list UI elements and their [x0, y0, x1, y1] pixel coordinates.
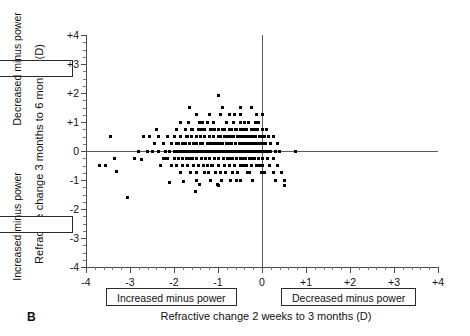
data-point	[166, 135, 169, 138]
data-point	[283, 179, 286, 182]
data-point	[261, 157, 264, 160]
data-point	[157, 150, 160, 153]
data-point	[255, 113, 258, 116]
x-tick-minor	[429, 267, 430, 270]
data-point	[261, 164, 264, 167]
x-tick-label: -3	[125, 276, 134, 288]
data-point	[208, 113, 211, 116]
data-point	[261, 113, 264, 116]
x-tick-label: +3	[388, 276, 400, 288]
y-tick-label: 0	[73, 145, 79, 157]
data-point	[233, 164, 236, 167]
y-tick-major	[81, 35, 86, 36]
y-tick-minor	[83, 42, 86, 43]
x-tick-minor	[368, 267, 369, 270]
data-point	[228, 164, 231, 167]
data-point	[229, 179, 232, 182]
y-tick-minor	[83, 202, 86, 203]
data-point	[239, 179, 242, 182]
x-tick-label: +4	[432, 276, 444, 288]
y-tick-label: +3	[67, 58, 79, 70]
y-tick-minor	[83, 224, 86, 225]
data-point	[148, 135, 151, 138]
data-point	[98, 164, 101, 167]
data-point	[164, 150, 167, 153]
data-point	[208, 157, 211, 160]
y-tick-minor	[83, 86, 86, 87]
data-point	[195, 171, 198, 174]
y-tick-minor	[83, 166, 86, 167]
data-point	[228, 113, 231, 116]
y-tick-minor	[83, 195, 86, 196]
data-point	[256, 128, 259, 131]
data-point	[272, 157, 275, 160]
y-tick-minor	[83, 187, 86, 188]
data-point	[179, 135, 182, 138]
data-point	[253, 128, 256, 131]
data-point	[173, 135, 176, 138]
y-axis-direction-label-top: Decreased minus power	[0, 60, 73, 77]
data-point	[250, 106, 253, 109]
data-point	[236, 171, 239, 174]
data-point	[272, 171, 275, 174]
data-point	[195, 157, 198, 160]
x-tick-minor	[376, 267, 377, 270]
data-point	[276, 142, 279, 145]
data-point	[274, 150, 277, 153]
data-point	[280, 171, 283, 174]
data-point	[230, 128, 233, 131]
data-point	[214, 171, 217, 174]
data-point	[170, 164, 173, 167]
data-point	[203, 128, 206, 131]
data-point	[177, 142, 180, 145]
data-point	[235, 128, 238, 131]
data-point	[203, 135, 206, 138]
x-axis-title: Refractive change 2 weeks to 3 months (D…	[0, 310, 470, 322]
data-point	[151, 150, 154, 153]
data-point	[186, 164, 189, 167]
data-point	[212, 135, 215, 138]
y-tick-label: -1	[70, 174, 79, 186]
data-point	[209, 128, 212, 131]
data-point	[268, 164, 271, 167]
y-tick-minor	[83, 216, 86, 217]
data-point	[294, 150, 297, 153]
x-tick-minor	[139, 267, 140, 270]
data-point	[126, 196, 129, 199]
data-point	[253, 157, 256, 160]
data-point	[217, 128, 220, 131]
data-point	[231, 135, 234, 138]
data-point	[250, 164, 253, 167]
data-point	[191, 128, 194, 131]
data-point	[200, 157, 203, 160]
y-tick-label: +2	[67, 87, 79, 99]
y-axis-direction-label-bottom: Increased minus power	[0, 216, 73, 233]
y-tick-major	[81, 64, 86, 65]
data-point	[226, 135, 229, 138]
data-point	[146, 150, 149, 153]
x-tick-minor	[332, 267, 333, 270]
x-axis-direction-label-left: Increased minus power	[106, 288, 237, 306]
y-tick-minor	[83, 245, 86, 246]
data-point	[251, 135, 254, 138]
data-point	[175, 164, 178, 167]
y-tick-minor	[83, 57, 86, 58]
x-axis-direction-label-right: Decreased minus power	[281, 288, 416, 306]
y-tick-major	[81, 180, 86, 181]
data-point	[276, 164, 279, 167]
data-point	[212, 121, 215, 124]
x-tick-minor	[341, 267, 342, 270]
data-point	[195, 142, 198, 145]
x-tick-minor	[420, 267, 421, 270]
y-tick-label: +1	[67, 116, 79, 128]
data-point	[133, 157, 136, 160]
x-tick-minor	[121, 267, 122, 270]
x-tick-major	[174, 267, 175, 273]
data-point	[239, 121, 242, 124]
data-point	[206, 164, 209, 167]
y-tick-minor	[83, 129, 86, 130]
data-point	[225, 121, 228, 124]
data-point	[159, 164, 162, 167]
data-point	[267, 135, 270, 138]
data-point	[217, 157, 220, 160]
